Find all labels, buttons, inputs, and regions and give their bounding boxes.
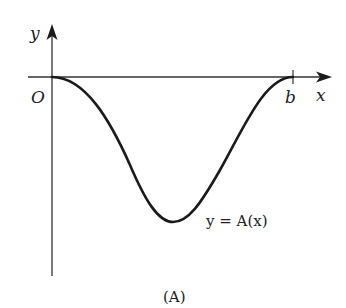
origin-label: O xyxy=(31,87,45,107)
curve-A xyxy=(52,77,293,222)
caption: (A) xyxy=(163,288,186,306)
y-axis-label: y xyxy=(29,23,40,43)
x-axis-label: x xyxy=(316,85,326,105)
diagram-canvas: y O b x y = A(x) (A) xyxy=(0,0,346,308)
b-label: b xyxy=(285,87,296,107)
curve-label: y = A(x) xyxy=(205,212,268,230)
